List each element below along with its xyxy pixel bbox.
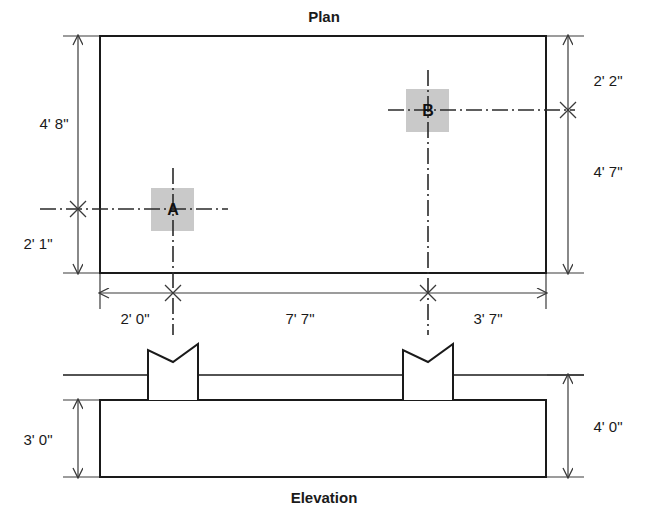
dim-plan-bottom-right: 3' 7" (473, 310, 502, 327)
dim-plan-right-lower: 4' 7" (593, 163, 622, 180)
dim-elevation-right: 4' 0" (593, 418, 622, 435)
dim-plan-bottom-middle: 7' 7" (285, 310, 314, 327)
dim-elevation-left: 3' 0" (23, 431, 52, 448)
elevation-mat-slab (100, 400, 546, 477)
drawing-canvas: Plan A B (0, 0, 649, 515)
dim-plan-bottom-left: 2' 0" (120, 310, 149, 327)
plan-title: Plan (308, 8, 340, 25)
elevation-title: Elevation (291, 489, 358, 506)
engineering-drawing: Plan A B (0, 0, 649, 515)
elevation-column-b (403, 344, 453, 400)
plan-mat-outline (100, 36, 546, 273)
dim-plan-right-upper: 2' 2" (593, 72, 622, 89)
column-label-b: B (422, 102, 434, 119)
dim-plan-left-lower: 2' 1" (23, 235, 52, 252)
column-label-a: A (167, 201, 179, 218)
dim-plan-left-upper: 4' 8" (39, 115, 68, 132)
elevation-column-a (148, 344, 198, 400)
